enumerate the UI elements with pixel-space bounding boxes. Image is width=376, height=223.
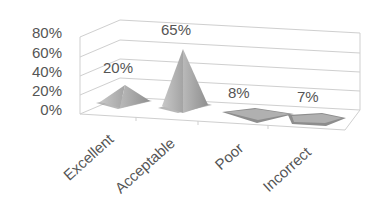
data-label-excellent: 20% (103, 59, 133, 76)
data-label-acceptable: 65% (161, 21, 191, 38)
pyramid-excellent (96, 85, 152, 109)
data-label-incorrect: 7% (297, 88, 319, 105)
y-tick-0: 0% (10, 101, 62, 118)
y-tick-40: 40% (10, 63, 62, 80)
data-label-poor: 8% (228, 84, 250, 101)
pyramid-chart: 80% 60% 40% 20% 0% 20% 65% 8% 7% Excelle… (0, 0, 376, 223)
pyramid-poor (222, 108, 294, 123)
pyramid-incorrect (288, 113, 346, 126)
y-tick-60: 60% (10, 44, 62, 61)
y-tick-80: 80% (10, 24, 62, 41)
pyramid-acceptable (158, 49, 212, 113)
y-tick-20: 20% (10, 82, 62, 99)
